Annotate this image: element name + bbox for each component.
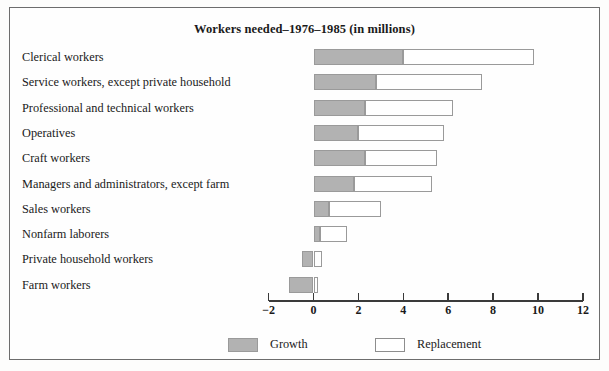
chart-row: Managers and administrators, except farm [0, 173, 609, 195]
category-label-wrap: Service workers, except private househol… [22, 71, 292, 93]
x-axis-tick-label: 0 [299, 303, 329, 318]
category-label: Craft workers [22, 150, 292, 166]
bar-segment-replacement [376, 74, 482, 90]
bar-segment-growth [314, 100, 366, 116]
bar-segment-replacement [320, 226, 347, 242]
chart-row: Sales workers [0, 198, 609, 220]
category-label-wrap: Professional and technical workers [22, 97, 292, 119]
bar-segment-replacement [358, 125, 443, 141]
bar-segment-growth [314, 176, 354, 192]
chart-row: Craft workers [0, 147, 609, 169]
category-label-wrap: Private household workers [22, 248, 292, 270]
chart-row: Operatives [0, 122, 609, 144]
category-label-wrap: Operatives [22, 122, 292, 144]
chart-row: Farm workers [0, 274, 609, 296]
category-label: Service workers, except private househol… [22, 74, 292, 90]
x-axis-tick [447, 293, 449, 301]
category-label: Private household workers [22, 251, 292, 267]
category-label-wrap: Sales workers [22, 198, 292, 220]
legend-label: Replacement [417, 337, 481, 352]
chart-row: Service workers, except private househol… [0, 71, 609, 93]
x-axis-tick [313, 293, 315, 301]
category-label-wrap: Clerical workers [22, 46, 292, 68]
x-axis-tick-label: 2 [343, 303, 373, 318]
x-axis-tick [403, 293, 405, 301]
bar-segment-growth [314, 125, 359, 141]
category-label: Operatives [22, 125, 292, 141]
category-label: Managers and administrators, except farm [22, 176, 292, 192]
bar-segment-replacement [314, 277, 318, 293]
x-axis-tick [268, 293, 270, 301]
plot-area: Clerical workersService workers, except … [0, 0, 609, 371]
category-label: Professional and technical workers [22, 100, 292, 116]
chart-row: Private household workers [0, 248, 609, 270]
bar-segment-growth [302, 251, 313, 267]
category-label-wrap: Managers and administrators, except farm [22, 173, 292, 195]
bar-segment-growth [314, 226, 321, 242]
x-axis-tick-label: 12 [568, 303, 598, 318]
category-label: Clerical workers [22, 49, 292, 65]
bar-segment-growth [314, 74, 377, 90]
chart-row: Clerical workers [0, 46, 609, 68]
legend-label: Growth [270, 337, 308, 352]
figure-container: Workers needed–1976–1985 (in millions) C… [0, 0, 609, 371]
category-label-wrap: Nonfarm laborers [22, 223, 292, 245]
bar-segment-replacement [354, 176, 433, 192]
chart-legend: GrowthReplacement [0, 336, 609, 358]
x-axis-tick-label: 4 [388, 303, 418, 318]
category-label: Farm workers [22, 277, 292, 293]
bar-segment-replacement [365, 150, 437, 166]
category-label: Nonfarm laborers [22, 226, 292, 242]
bar-segment-growth [314, 49, 404, 65]
x-axis-tick-label: 10 [523, 303, 553, 318]
x-axis-line [269, 300, 583, 302]
x-axis-tick [492, 293, 494, 301]
x-axis-tick [358, 293, 360, 301]
category-label-wrap: Farm workers [22, 274, 292, 296]
bar-segment-growth [289, 277, 314, 293]
bar-segment-replacement [365, 100, 453, 116]
x-axis-tick [537, 293, 539, 301]
bar-segment-replacement [314, 251, 323, 267]
bar-segment-replacement [329, 201, 381, 217]
legend-swatch-growth [228, 338, 258, 352]
bar-segment-growth [314, 201, 330, 217]
bar-segment-growth [314, 150, 366, 166]
legend-swatch-replacement [375, 338, 405, 352]
x-axis-tick-label: 8 [478, 303, 508, 318]
chart-row: Nonfarm laborers [0, 223, 609, 245]
x-axis-tick-label: 6 [433, 303, 463, 318]
category-label-wrap: Craft workers [22, 147, 292, 169]
chart-row: Professional and technical workers [0, 97, 609, 119]
x-axis-tick [582, 293, 584, 301]
category-label: Sales workers [22, 201, 292, 217]
x-axis-tick-label: −2 [254, 303, 284, 318]
bar-segment-replacement [403, 49, 533, 65]
